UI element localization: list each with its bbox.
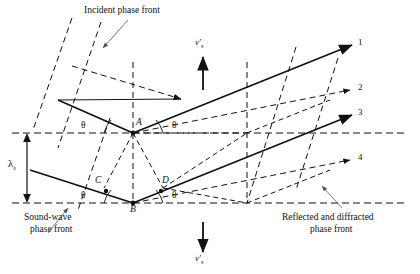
figure-canvas: Incident phase front Sound-wave phase fr… xyxy=(0,0,420,274)
construction-line-A-to-D xyxy=(133,133,163,188)
construction-line-A-to-C xyxy=(104,133,133,188)
point-label-D: D xyxy=(162,176,169,186)
outgoing-ray-3 xyxy=(133,115,352,203)
velocity-label-up: v′s xyxy=(195,38,204,49)
vertex-dot-D xyxy=(159,189,163,193)
point-label-C: C xyxy=(95,176,101,186)
ray-number-3: 3 xyxy=(358,108,363,117)
caption-reflected-line1: Reflected and diffracted xyxy=(282,213,374,223)
caption-sound-wave-line1: Sound-wave xyxy=(24,213,72,223)
vertex-dot-A xyxy=(131,131,136,136)
leader-line-reflected xyxy=(322,186,342,208)
angle-label-upper-left: θ xyxy=(81,121,86,131)
phase-front-link-diagonal-upper xyxy=(163,133,247,188)
ray-number-4: 4 xyxy=(358,153,363,162)
angle-label-lower-left: θ xyxy=(81,191,86,201)
wavelength-subscript: s xyxy=(13,164,16,171)
incident-ray-to-A xyxy=(58,100,133,133)
incident-phase-front-first xyxy=(33,18,72,130)
caption-sound-wave-line2: phase front xyxy=(30,225,72,235)
outgoing-ray-1 xyxy=(133,45,352,133)
caption-reflected-line2: phase front xyxy=(310,225,352,235)
ray-number-1: 1 xyxy=(358,38,363,47)
velocity-label-down: v′s xyxy=(195,254,204,265)
wavelength-dimension-arrow xyxy=(23,133,31,203)
angle-label-lower-right: θ xyxy=(172,191,177,201)
caption-incident-phase-front: Incident phase front xyxy=(84,6,160,16)
velocity-up-subscript: s xyxy=(201,42,204,49)
reflected-phase-front-near xyxy=(247,47,296,203)
point-label-A: A xyxy=(136,118,142,128)
outgoing-ray-2 xyxy=(133,90,350,133)
incident-wavefront-connector xyxy=(72,66,181,99)
leader-line-incident xyxy=(103,20,128,48)
phase-front-link-lower xyxy=(247,170,330,203)
velocity-down-subscript: s xyxy=(201,258,204,265)
wavelength-label: λs xyxy=(8,158,16,172)
point-label-B: B xyxy=(130,205,136,215)
incident-wavefront-connector-lower xyxy=(58,99,181,100)
angle-label-upper-right: θ xyxy=(172,121,177,131)
ray-number-2: 2 xyxy=(358,83,363,92)
vertex-dot-C xyxy=(104,189,108,193)
